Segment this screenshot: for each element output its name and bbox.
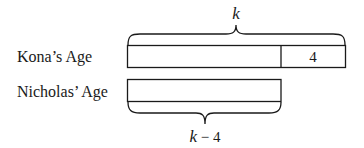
kona-segment-value: 4 [309,49,317,65]
top-brace [128,25,345,45]
tape-diagram: k Kona’s Age 4 Nicholas’ Age k − 4 [0,0,364,148]
row-label-kona: Kona’s Age [17,48,92,66]
bottom-brace-label: k − 4 [189,127,221,146]
bottom-brace [128,102,281,124]
top-brace-label: k [232,4,240,23]
row-label-nicholas: Nicholas’ Age [17,83,108,101]
nicholas-tape [128,80,282,102]
